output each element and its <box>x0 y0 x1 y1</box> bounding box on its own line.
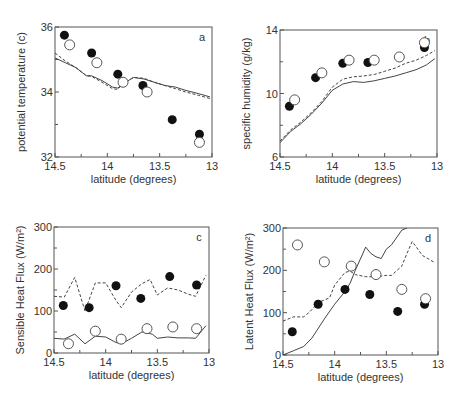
x-tick-label: 13 <box>203 356 215 368</box>
open-circle-marker <box>421 294 431 304</box>
filled-circle-marker <box>165 272 174 281</box>
y-tick-label: 300 <box>34 221 52 233</box>
x-tick-label: 14 <box>326 160 338 172</box>
filled-circle-marker <box>136 294 145 303</box>
open-circle-marker <box>168 322 178 332</box>
solid-line-series <box>55 58 210 97</box>
filled-circle-marker <box>288 327 297 336</box>
x-tick-label: 14 <box>329 358 341 370</box>
filled-circle-marker <box>192 280 201 289</box>
filled-circle-marker <box>341 285 350 294</box>
x-tick-label: 13 <box>431 160 443 172</box>
solid-line-series <box>54 326 206 344</box>
open-circle-marker <box>346 261 356 271</box>
x-axis-label: latitude (degrees) <box>89 369 175 381</box>
open-circle-marker <box>419 38 429 48</box>
y-tick-label: 36 <box>41 21 53 33</box>
plot-frame <box>55 27 212 157</box>
y-tick-label: 0 <box>275 349 281 361</box>
x-tick-label: 13.5 <box>374 160 395 172</box>
plot-frame <box>54 227 209 353</box>
dashed-line-series <box>283 242 435 322</box>
dashed-line-series <box>55 53 210 99</box>
x-axis-label: latitude (degrees) <box>91 173 177 185</box>
x-tick-label: 13.5 <box>149 160 170 172</box>
open-circle-marker <box>317 68 327 78</box>
y-tick-label: 34 <box>41 86 53 98</box>
panel-label: c <box>196 231 202 243</box>
y-tick-label: 6 <box>272 151 278 163</box>
y-tick-label: 32 <box>41 151 53 163</box>
open-circle-marker <box>290 95 300 105</box>
figure: 14.51413.513323436latitude (degrees)pote… <box>0 0 459 395</box>
panel-a-temperature-chart: 14.51413.513323436latitude (degrees)pote… <box>15 21 218 185</box>
solid-line-series <box>280 59 435 143</box>
filled-circle-marker <box>168 115 177 124</box>
filled-circle-marker <box>85 303 94 312</box>
open-circle-marker <box>90 326 100 336</box>
open-circle-marker <box>142 87 152 97</box>
open-circle-marker <box>319 257 329 267</box>
open-circle-marker <box>397 284 407 294</box>
y-axis-label: Sensible Heat Flux (W/m²) <box>14 226 26 355</box>
open-circle-marker <box>63 339 73 349</box>
filled-circle-marker <box>314 300 323 309</box>
plot-frame <box>280 30 437 157</box>
y-axis-label: specific humidity (g/kg) <box>240 38 252 150</box>
filled-circle-marker <box>393 307 402 316</box>
open-circle-marker <box>192 324 202 334</box>
open-circle-marker <box>142 324 152 334</box>
y-tick-label: 10 <box>266 88 278 100</box>
dashed-line-series <box>54 275 206 311</box>
y-tick-label: 0 <box>46 347 52 359</box>
filled-circle-marker <box>87 49 96 58</box>
panel-label: a <box>199 31 206 43</box>
y-tick-label: 100 <box>34 305 52 317</box>
x-axis-label: latitude (degrees) <box>318 371 404 383</box>
x-tick-label: 14 <box>101 160 113 172</box>
open-circle-marker <box>118 77 128 87</box>
filled-circle-marker <box>59 301 68 310</box>
panel-c-sensible-heat-flux-chart: 14.51413.5130100200300latitude (degrees)… <box>14 221 215 381</box>
y-axis-label: Latent Heat Flux (W/m²) <box>243 233 255 350</box>
panel-d-latent-heat-flux-chart: 14.51413.5130100200300latitude (degrees)… <box>243 222 444 383</box>
y-axis-label: potential temperature (c) <box>15 32 27 152</box>
panel-label: d <box>425 232 431 244</box>
open-circle-marker <box>344 55 354 65</box>
open-circle-marker <box>92 58 102 68</box>
filled-circle-marker <box>112 281 121 290</box>
open-circle-marker <box>116 334 126 344</box>
open-circle-marker <box>371 270 381 280</box>
x-tick-label: 14 <box>100 356 112 368</box>
plot-frame <box>283 228 438 355</box>
open-circle-marker <box>65 40 75 50</box>
x-tick-label: 13.5 <box>147 356 168 368</box>
y-tick-label: 200 <box>263 264 281 276</box>
panel-b-humidity-chart: 14.51413.51361014latitude (degrees)speci… <box>240 24 443 185</box>
filled-circle-marker <box>365 290 374 299</box>
y-tick-label: 200 <box>34 263 52 275</box>
dashed-line-series <box>280 51 435 142</box>
y-tick-label: 300 <box>263 222 281 234</box>
x-tick-label: 13 <box>206 160 218 172</box>
y-tick-label: 100 <box>263 307 281 319</box>
open-circle-marker <box>394 52 404 62</box>
open-circle-marker <box>194 137 204 147</box>
filled-circle-marker <box>60 31 69 40</box>
x-tick-label: 13 <box>432 358 444 370</box>
x-tick-label: 13.5 <box>376 358 397 370</box>
open-circle-marker <box>369 55 379 65</box>
open-circle-marker <box>292 240 302 250</box>
x-axis-label: latitude (degrees) <box>316 173 402 185</box>
y-tick-label: 14 <box>266 24 278 36</box>
